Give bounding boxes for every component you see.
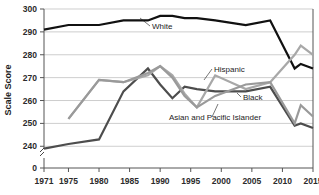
series-annotation-label: Asian and Pacific Islander (169, 113, 261, 122)
x-tick-label: 1990 (151, 176, 170, 186)
x-tick-label: 1975 (59, 176, 78, 186)
y-tick-label: 240 (23, 141, 37, 151)
y-axis-title-group: Scale Score (3, 64, 13, 115)
x-tick-label: 1985 (120, 176, 139, 186)
x-tick-labels-group: 1971197519801985199019952000200520102015 (35, 176, 319, 186)
x-tick-label: 2005 (242, 176, 261, 186)
series-annotation-label: White (152, 22, 173, 31)
annotation-leader-line (237, 93, 241, 97)
gridlines-group (44, 9, 313, 146)
axis-break-symbol (40, 148, 44, 156)
x-tick-label: 1971 (35, 176, 54, 186)
x-tick-label: 1995 (181, 176, 200, 186)
y-tick-label: 260 (23, 96, 37, 106)
x-tick-label: 2010 (273, 176, 292, 186)
series-line (44, 16, 313, 69)
x-tick-label: 1980 (90, 176, 109, 186)
y-tick-label: 0 (32, 163, 37, 173)
x-tick-label: 2000 (212, 176, 231, 186)
series-line (68, 46, 313, 119)
annotation-leader-line (204, 69, 212, 80)
y-tick-label: 280 (23, 50, 37, 60)
line-chart: 3002902802702602502400 19711975198019851… (0, 0, 319, 195)
y-tick-labels-group: 3002902802702602502400 (23, 4, 37, 173)
y-tick-label: 250 (23, 118, 37, 128)
y-tick-label: 300 (23, 4, 37, 14)
series-annotation-label: Hispanic (214, 65, 245, 74)
y-tick-label: 290 (23, 27, 37, 37)
series-annotations-group: WhiteHispanicBlackAsian and Pacific Isla… (140, 18, 264, 122)
chart-container: 3002902802702602502400 19711975198019851… (0, 0, 319, 195)
y-tick-label: 270 (23, 73, 37, 83)
series-lines-group (44, 16, 313, 149)
axis-break-icon (40, 148, 44, 156)
series-annotation-label: Black (243, 93, 264, 102)
y-axis-title: Scale Score (3, 64, 13, 115)
x-tick-label: 2015 (304, 176, 319, 186)
